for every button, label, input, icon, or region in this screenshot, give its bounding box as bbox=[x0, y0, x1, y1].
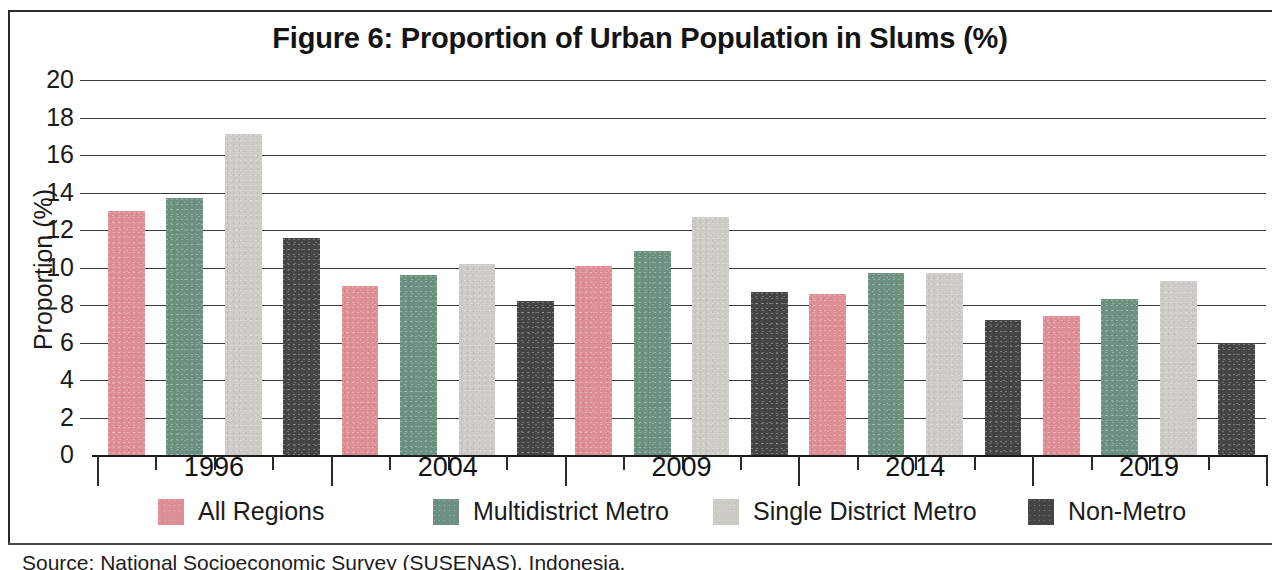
bar bbox=[342, 286, 379, 455]
y-axis-tick-label: 0 bbox=[30, 442, 74, 467]
y-axis-tick-label: 20 bbox=[30, 67, 74, 92]
gridline bbox=[80, 118, 1266, 119]
legend-swatch-icon bbox=[1028, 499, 1054, 525]
bar bbox=[1043, 316, 1080, 455]
plot-area: 20181614121086420 Proportion (%) 1996200… bbox=[0, 0, 1275, 570]
legend-swatch-icon bbox=[713, 499, 739, 525]
legend-item[interactable]: All Regions bbox=[158, 497, 324, 526]
bar bbox=[985, 320, 1022, 455]
legend-item[interactable]: Single District Metro bbox=[713, 497, 977, 526]
chart-legend: All RegionsMultidistrict MetroSingle Dis… bbox=[8, 497, 1272, 533]
bar bbox=[283, 238, 320, 456]
legend-item[interactable]: Multidistrict Metro bbox=[433, 497, 669, 526]
bar bbox=[108, 211, 145, 455]
x-axis-category-label: 2019 bbox=[1032, 452, 1266, 483]
legend-item[interactable]: Non-Metro bbox=[1028, 497, 1186, 526]
legend-swatch-icon bbox=[158, 499, 184, 525]
bar bbox=[517, 301, 554, 455]
y-axis-title: Proportion (%) bbox=[29, 120, 58, 420]
bar bbox=[751, 292, 788, 455]
bar bbox=[459, 264, 496, 455]
legend-swatch-icon bbox=[433, 499, 459, 525]
bar bbox=[575, 266, 612, 455]
bar bbox=[1218, 343, 1255, 456]
bar bbox=[400, 275, 437, 455]
bar bbox=[634, 251, 671, 455]
x-axis-category-label: 2009 bbox=[565, 452, 799, 483]
bar bbox=[1101, 299, 1138, 455]
bar bbox=[926, 273, 963, 455]
bar bbox=[868, 273, 905, 455]
legend-label: All Regions bbox=[198, 497, 324, 526]
figure-container: Figure 6: Proportion of Urban Population… bbox=[0, 0, 1275, 570]
gridline bbox=[80, 80, 1266, 81]
bar bbox=[166, 198, 203, 455]
source-note: Source: National Socioeconomic Survey (S… bbox=[22, 551, 625, 570]
x-axis-group-tick bbox=[1266, 456, 1268, 486]
legend-label: Non-Metro bbox=[1068, 497, 1186, 526]
bar bbox=[809, 294, 846, 455]
bar bbox=[1160, 281, 1197, 455]
bar bbox=[225, 134, 262, 455]
x-axis-category-label: 2004 bbox=[331, 452, 565, 483]
source-divider bbox=[8, 543, 1272, 545]
x-axis-category-label: 1996 bbox=[97, 452, 331, 483]
bar bbox=[692, 217, 729, 455]
legend-label: Single District Metro bbox=[753, 497, 977, 526]
x-axis-category-label: 2014 bbox=[798, 452, 1032, 483]
legend-label: Multidistrict Metro bbox=[473, 497, 669, 526]
